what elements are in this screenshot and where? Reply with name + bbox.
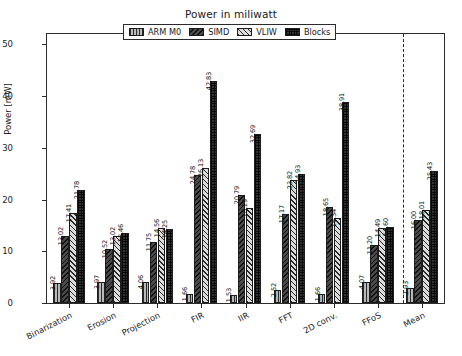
- bar-arm-m0: 2.52: [274, 290, 281, 303]
- bar-value-label: 3.97: [93, 275, 101, 289]
- bar-blocks: 42.83: [210, 81, 217, 303]
- bar-blocks: 14.60: [386, 227, 393, 303]
- x-tick-mark: [422, 304, 423, 308]
- bar-group: 1.6618.6516.3438.91: [318, 34, 349, 303]
- y-tick-mark: [42, 96, 46, 97]
- y-tick-label: 30: [0, 143, 13, 153]
- bar-arm-m0: 2.93: [406, 288, 413, 303]
- y-tick-mark: [42, 200, 46, 201]
- bar-groups: 3.9213.0217.4121.783.9710.5213.0213.464.…: [47, 34, 444, 303]
- bar-value-label: 14.60: [382, 218, 390, 236]
- bar-group: 2.5217.1723.8224.93: [274, 34, 305, 303]
- bar-group: 4.0711.2014.4914.60: [362, 34, 393, 303]
- bar-group: 3.9213.0217.4121.78: [53, 34, 84, 303]
- bar-blocks: 24.93: [298, 174, 305, 303]
- x-tick-mark: [378, 304, 379, 308]
- bar-arm-m0: 1.66: [318, 294, 325, 303]
- bar-vliw: 14.49: [378, 228, 385, 303]
- legend-item-simd: SIMD: [189, 27, 229, 37]
- bar-value-label: 24.93: [294, 165, 302, 183]
- legend-label-vliw: VLIW: [256, 27, 277, 37]
- bar-simd: 13.02: [61, 236, 68, 303]
- bar-group: 1.5320.7918.2932.69: [230, 34, 261, 303]
- bar-blocks: 38.91: [342, 102, 349, 303]
- bar-vliw: 17.41: [69, 213, 76, 303]
- bar-value-label: 16.34: [330, 209, 338, 227]
- x-tick-mark: [334, 304, 335, 308]
- bar-value-label: 14.49: [374, 219, 382, 237]
- chart-title: Power in miliwatt: [0, 8, 462, 20]
- bar-value-label: 42.83: [205, 72, 213, 90]
- bar-arm-m0: 3.97: [97, 282, 104, 303]
- bar-group: 4.0611.7514.5614.25: [142, 34, 173, 303]
- bar-simd: 24.78: [194, 175, 201, 303]
- bar-value-label: 1.53: [225, 288, 233, 302]
- y-tick-label: 10: [0, 246, 13, 256]
- bar-blocks: 25.43: [430, 171, 437, 303]
- bar-arm-m0: 4.07: [362, 282, 369, 303]
- chart-legend: ARM M0 SIMD VLIW Blocks: [123, 24, 336, 40]
- legend-label-arm-m0: ARM M0: [148, 27, 181, 37]
- x-tick-label: Binarization: [0, 310, 74, 355]
- bar-group: 3.9710.5213.0213.46: [97, 34, 128, 303]
- legend-item-vliw: VLIW: [237, 27, 277, 37]
- y-tick-label: 40: [0, 91, 13, 101]
- bar-value-label: 26.13: [197, 159, 205, 177]
- bar-value-label: 16.00: [410, 211, 418, 229]
- bar-simd: 17.17: [282, 214, 289, 303]
- bar-value-label: 1.66: [314, 287, 322, 301]
- x-tick-mark: [201, 304, 202, 308]
- legend-label-simd: SIMD: [208, 27, 229, 37]
- bar-value-label: 25.43: [426, 162, 434, 180]
- x-tick-mark: [290, 304, 291, 308]
- legend-item-blocks: Blocks: [285, 27, 330, 37]
- y-tick-label: 20: [0, 195, 13, 205]
- bar-blocks: 14.25: [166, 229, 173, 303]
- bar-value-label: 17.17: [278, 205, 286, 223]
- bar-value-label: 1.66: [181, 287, 189, 301]
- legend-item-arm-m0: ARM M0: [129, 27, 181, 37]
- x-tick-mark: [246, 304, 247, 308]
- bar-simd: 10.52: [105, 249, 112, 303]
- legend-swatch-arm-m0-icon: [129, 28, 144, 36]
- legend-swatch-blocks-icon: [285, 28, 300, 36]
- bar-simd: 11.20: [370, 245, 377, 303]
- bar-value-label: 18.29: [241, 199, 249, 217]
- bar-value-label: 32.69: [249, 125, 257, 143]
- bar-vliw: 18.29: [246, 208, 253, 303]
- bar-value-label: 11.20: [366, 236, 374, 254]
- x-tick-mark: [69, 304, 70, 308]
- bar-simd: 11.75: [150, 242, 157, 303]
- mean-separator: [403, 34, 404, 303]
- y-tick-label: 0: [0, 298, 13, 308]
- bar-value-label: 4.06: [137, 275, 145, 289]
- bar-group: 2.9316.0018.0125.43: [406, 34, 437, 303]
- bar-value-label: 23.82: [286, 171, 294, 189]
- bar-value-label: 21.78: [73, 181, 81, 199]
- bar-arm-m0: 1.53: [230, 295, 237, 303]
- bar-value-label: 14.25: [161, 220, 169, 238]
- bar-value-label: 13.46: [117, 224, 125, 242]
- bar-value-label: 4.07: [358, 275, 366, 289]
- y-tick-mark: [42, 303, 46, 304]
- y-tick-mark: [42, 44, 46, 45]
- bar-blocks: 13.46: [121, 233, 128, 303]
- bar-value-label: 13.02: [109, 226, 117, 244]
- bar-vliw: 13.02: [113, 236, 120, 303]
- bar-value-label: 10.52: [101, 239, 109, 257]
- bar-arm-m0: 3.92: [53, 283, 60, 303]
- x-tick-mark: [157, 304, 158, 308]
- bar-blocks: 21.78: [77, 190, 84, 303]
- chart-root: Power in miliwatt ARM M0 SIMD VLIW Block…: [0, 0, 462, 356]
- bar-vliw: 23.82: [290, 180, 297, 303]
- x-tick-mark: [113, 304, 114, 308]
- y-tick-mark: [42, 251, 46, 252]
- bar-value-label: 18.65: [322, 197, 330, 215]
- bar-vliw: 16.34: [334, 218, 341, 303]
- bar-value-label: 18.01: [418, 201, 426, 219]
- bar-group: 1.6624.7826.1342.83: [186, 34, 217, 303]
- legend-label-blocks: Blocks: [304, 27, 330, 37]
- bar-simd: 16.00: [414, 220, 421, 303]
- bar-value-label: 2.52: [270, 283, 278, 297]
- bar-blocks: 32.69: [254, 134, 261, 303]
